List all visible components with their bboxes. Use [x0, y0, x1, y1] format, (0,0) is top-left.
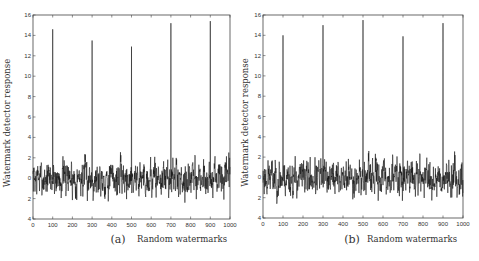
x-tick-label: 200 [67, 222, 78, 228]
x-tick-label: 900 [438, 221, 449, 227]
x-tick-label: 900 [205, 222, 216, 228]
chart-panel-a: 0100200300400500600700800900100042024681… [2, 12, 237, 246]
y-tick-label: 16 [254, 12, 261, 18]
x-tick-label: 300 [87, 222, 98, 228]
x-tick-label: 700 [166, 222, 177, 228]
x-tick-label: 600 [378, 221, 389, 227]
x-tick-label: 500 [358, 221, 369, 227]
x-tick-label: 800 [418, 221, 429, 227]
x-tick-label: 400 [107, 222, 118, 228]
x-tick-label: 1000 [456, 221, 470, 227]
x-tick-label: 200 [298, 221, 309, 227]
x-tick-label: 0 [31, 222, 35, 228]
y-tick-label: 2 [258, 154, 262, 160]
x-tick-label: 100 [48, 222, 59, 228]
x-tick-label: 700 [398, 221, 409, 227]
x-tick-label: 600 [146, 222, 157, 228]
x-axis-label: Random watermarks [367, 234, 457, 244]
x-tick-label: 1000 [223, 222, 237, 228]
y-tick-label: 2 [28, 155, 32, 161]
y-tick-label: 14 [24, 32, 31, 38]
x-tick-label: 300 [318, 221, 329, 227]
y-axis-label: Watermark detector response [2, 59, 12, 187]
y-axis-label: Watermark detector response [240, 58, 250, 186]
x-tick-label: 400 [338, 221, 349, 227]
detector-response-line [263, 20, 463, 204]
y-tick-label: 8 [28, 94, 32, 100]
y-tick-label: 0 [258, 174, 262, 180]
y-tick-label: 2 [28, 196, 32, 202]
y-tick-label: 8 [258, 93, 262, 99]
x-tick-label: 500 [126, 222, 137, 228]
y-tick-label: 12 [254, 53, 261, 59]
detector-response-line [33, 21, 230, 203]
chart-panel-b: 0100200300400500600700800900100042024681… [240, 12, 470, 246]
y-tick-label: 0 [28, 175, 32, 181]
y-tick-label: 6 [28, 114, 32, 120]
panel-label: (b) [344, 233, 360, 246]
x-tick-label: 0 [261, 221, 265, 227]
y-tick-label: 10 [24, 73, 31, 79]
y-tick-label: 10 [254, 73, 261, 79]
x-axis-label: Random watermarks [137, 234, 227, 244]
x-tick-label: 100 [278, 221, 289, 227]
figure: 0100200300400500600700800900100042024681… [0, 0, 479, 261]
y-tick-label: 12 [24, 53, 31, 59]
y-tick-label: 16 [24, 12, 31, 18]
y-tick-label: 4 [28, 134, 32, 140]
y-tick-label: 2 [258, 195, 262, 201]
x-tick-label: 800 [186, 222, 197, 228]
y-tick-label: 6 [258, 114, 262, 120]
y-tick-label: 4 [258, 134, 262, 140]
y-tick-label: 14 [254, 32, 261, 38]
panel-label: (a) [110, 233, 125, 246]
